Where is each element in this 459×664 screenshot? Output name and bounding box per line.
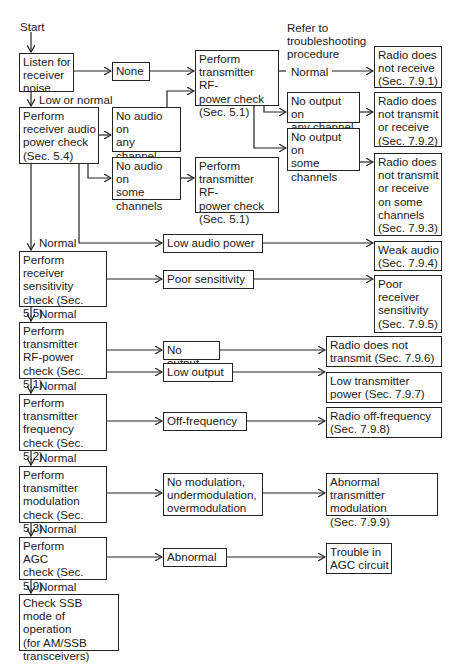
check-agc: Perform AGC check (Sec. 5.9)	[19, 537, 107, 580]
outcome-agc-trouble: Trouble in AGC circuit	[326, 543, 392, 574]
outcome-7-9-8: Radio off-frequency (Sec. 7.9.8)	[326, 407, 442, 438]
outcome-7-9-7: Low transmitter power (Sec. 7.9.7)	[326, 372, 442, 403]
edge-label-normal-output: Normal	[289, 65, 330, 78]
condition-no-output: No output	[163, 341, 220, 360]
condition-no-output-some-channels: No output on some channels	[287, 128, 360, 171]
condition-no-output-any-channel: No output on any channel	[287, 92, 360, 123]
condition-poor-sensitivity: Poor sensitivity	[163, 270, 254, 289]
check-receiver-audio: Perform receiver audio power check (Sec.…	[19, 107, 99, 164]
condition-none: None	[112, 62, 150, 81]
condition-no-audio-some-channels: No audio on some channels	[112, 157, 181, 200]
check-transmitter-modulation: Perform transmitter modulation check (Se…	[19, 466, 107, 523]
start-label: Start	[20, 20, 44, 33]
condition-no-audio-any-channel: No audio on any channel (noise only)	[112, 107, 181, 152]
edge-label-normal: Normal	[39, 307, 76, 320]
edge-label-normal: Normal	[39, 451, 76, 464]
check-transmitter-rf-mid: Perform transmitter RF- power check (Sec…	[195, 157, 279, 213]
check-listen-noise: Listen for receiver noise	[19, 53, 74, 92]
check-ssb-mode: Check SSB mode of operation (for AM/SSB …	[19, 594, 119, 651]
edge-label-normal: Normal	[39, 580, 76, 593]
edge-label-normal: Normal	[39, 379, 76, 392]
outcome-7-9-5: Poor receiver sensitivity (Sec. 7.9.5)	[374, 275, 442, 333]
outcome-7-9-1: Radio does not receive (Sec. 7.9.1)	[374, 46, 442, 88]
check-transmitter-frequency: Perform transmitter frequency check (Sec…	[19, 394, 107, 451]
check-transmitter-rf: Perform transmitter RF-power check (Sec.…	[19, 322, 107, 379]
condition-off-frequency: Off-frequency	[163, 412, 247, 431]
condition-abnormal: Abnormal	[163, 548, 227, 567]
condition-low-audio-power: Low audio power	[163, 234, 263, 253]
check-receiver-sensitivity: Perform receiver sensitivity check (Sec.…	[19, 251, 107, 307]
outcome-7-9-9: Abnormal transmitter modulation (Sec. 7.…	[326, 473, 438, 516]
outcome-7-9-4: Weak audio (Sec. 7.9.4)	[374, 241, 442, 271]
condition-bad-modulation: No modulation, undermodulation, overmodu…	[163, 473, 263, 516]
outcome-7-9-3: Radio does not transmit or receive on so…	[374, 153, 442, 236]
edge-label-normal: Normal	[39, 236, 76, 249]
outcome-7-9-6: Radio does not transmit (Sec. 7.9.6)	[326, 336, 442, 367]
outcome-7-9-2: Radio does not transmit or receive (Sec.…	[374, 92, 442, 147]
condition-low-output: Low output	[163, 363, 233, 382]
refer-label: Refer to troubleshooting procedure	[287, 21, 366, 61]
edge-label-low-or-normal: Low or normal	[39, 93, 112, 106]
check-transmitter-rf-top: Perform transmitter RF- power check (Sec…	[195, 50, 279, 106]
edge-label-normal: Normal	[39, 522, 76, 535]
